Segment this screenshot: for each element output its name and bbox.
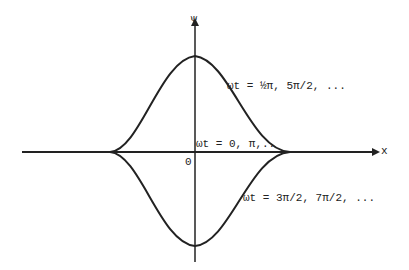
x-axis-label: x <box>381 145 388 157</box>
wave-diagram: ψ x 0 ωt = ½π, 5π/2, ... ωt = 0, π,.. ωt… <box>0 0 409 270</box>
origin-label: 0 <box>185 156 192 168</box>
negative-peak-label: ωt = 3π/2, 7π/2, ... <box>243 192 375 204</box>
positive-peak-label: ωt = ½π, 5π/2, ... <box>227 80 346 92</box>
diagram-canvas <box>0 0 409 270</box>
zero-line-label: ωt = 0, π,.. <box>196 138 275 150</box>
y-axis-label: ψ <box>190 12 198 24</box>
